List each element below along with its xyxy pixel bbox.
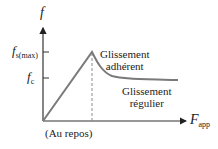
- region-line1: Glissement: [122, 85, 172, 97]
- x-axis-label: Fapp: [190, 113, 210, 127]
- friction-force-diagram: f fs(max) fc Fapp Glissement adhérent Gl…: [0, 0, 218, 149]
- region-line2: adhérent: [100, 60, 150, 72]
- tick-label-fs-max: fs(max): [12, 44, 38, 57]
- x-axis-subscript: app: [199, 120, 211, 129]
- tick-subscript: s(max): [16, 51, 38, 60]
- origin-label: (Au repos): [45, 128, 92, 139]
- y-axis-symbol: f: [40, 5, 44, 20]
- region-label-kinetic: Glissement régulier: [122, 85, 172, 109]
- region-line1: Glissement: [100, 48, 150, 60]
- origin-label-text: (Au repos): [45, 127, 92, 139]
- region-line2: régulier: [122, 97, 172, 109]
- tick-label-fc: fc: [27, 70, 34, 83]
- tick-subscript: c: [31, 77, 35, 86]
- y-axis-label: f: [40, 6, 44, 20]
- x-axis-symbol: F: [190, 112, 199, 127]
- region-label-static: Glissement adhérent: [100, 48, 150, 72]
